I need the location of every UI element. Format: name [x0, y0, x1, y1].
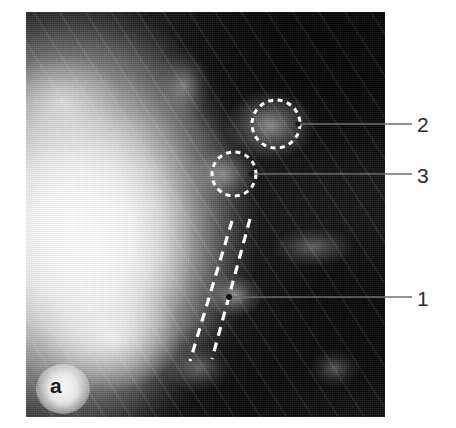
- radiograph-halftone-grain: [26, 12, 385, 417]
- panel-letter-halo: [36, 364, 90, 414]
- radiograph-image: [26, 12, 385, 417]
- panel-letter: a: [50, 375, 62, 396]
- annotation-label-1: 1: [417, 288, 429, 309]
- figure-root: 2 3 1 a: [0, 0, 456, 428]
- annotation-label-3: 3: [417, 165, 429, 186]
- annotation-label-2: 2: [417, 114, 429, 135]
